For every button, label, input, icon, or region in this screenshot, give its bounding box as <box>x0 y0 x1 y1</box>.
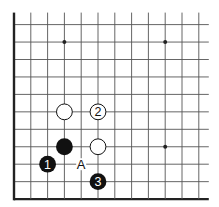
white-stone <box>90 139 106 155</box>
star-point <box>163 145 167 149</box>
star-point <box>62 40 66 44</box>
move-number-label: 3 <box>95 175 102 189</box>
black-stone <box>56 138 73 155</box>
go-board: A 213 <box>0 0 219 207</box>
point-marker-label: A <box>77 157 86 172</box>
move-number-label: 1 <box>44 158 51 172</box>
white-stone <box>57 104 73 120</box>
star-point <box>163 40 167 44</box>
move-number-label: 2 <box>95 105 102 119</box>
grid-lines <box>14 13 209 201</box>
markers: A <box>76 157 86 172</box>
